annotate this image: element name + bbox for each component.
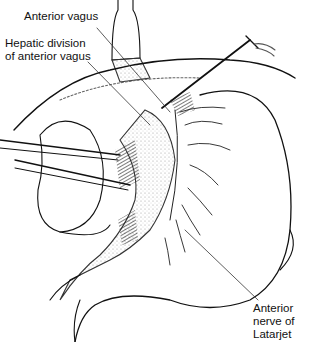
label-latarjet-line2: nerve of [253, 315, 295, 328]
label-anterior-vagus: Anterior vagus [24, 10, 98, 23]
label-hepatic-division-line2: of anterior vagus [5, 50, 91, 63]
label-latarjet-line1: Anterior [253, 302, 293, 315]
label-hepatic-division-line1: Hepatic division [5, 37, 86, 50]
anatomical-illustration: Anterior vagus Hepatic division of anter… [0, 0, 312, 342]
label-latarjet-line3: Latarjet [253, 328, 291, 341]
